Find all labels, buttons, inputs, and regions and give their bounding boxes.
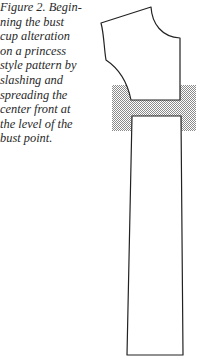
pattern-diagram bbox=[0, 0, 198, 357]
bodice-lower-pattern bbox=[127, 116, 183, 355]
